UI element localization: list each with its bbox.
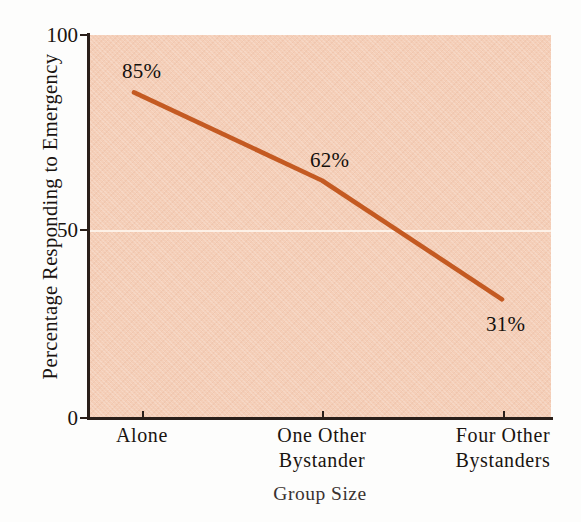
data-label-62: 62% bbox=[310, 148, 349, 173]
plot-area bbox=[89, 35, 551, 418]
chart-figure: 100 50 0 Alone One Other Bystander Four … bbox=[0, 0, 581, 522]
x-tick-mark-one-other bbox=[322, 411, 324, 420]
x-tick-mark-alone bbox=[142, 411, 144, 420]
x-axis-title: Group Size bbox=[89, 483, 551, 505]
y-tick-mark-50 bbox=[80, 229, 88, 231]
x-tick-label-alone: Alone bbox=[116, 423, 168, 448]
x-tick-label-four-other-line1: Four Other bbox=[456, 423, 551, 448]
x-axis-line bbox=[87, 417, 553, 420]
data-label-85: 85% bbox=[122, 59, 161, 84]
gridline-50 bbox=[89, 230, 551, 232]
x-tick-label-one-other-line1: One Other bbox=[277, 423, 366, 448]
x-tick-label-one-other: One Other Bystander bbox=[277, 423, 366, 473]
y-tick-mark-0 bbox=[80, 417, 88, 419]
x-tick-label-four-other: Four Other Bystanders bbox=[456, 423, 551, 473]
x-tick-mark-four-other bbox=[503, 411, 505, 420]
y-tick-mark-100 bbox=[80, 34, 88, 36]
x-tick-label-one-other-line2: Bystander bbox=[277, 448, 366, 473]
y-axis-line bbox=[87, 33, 90, 420]
x-tick-label-four-other-line2: Bystanders bbox=[456, 448, 551, 473]
y-axis-title: Percentage Responding to Emergency bbox=[39, 17, 62, 417]
x-tick-label-alone-line1: Alone bbox=[116, 423, 168, 448]
data-label-31: 31% bbox=[486, 312, 525, 337]
